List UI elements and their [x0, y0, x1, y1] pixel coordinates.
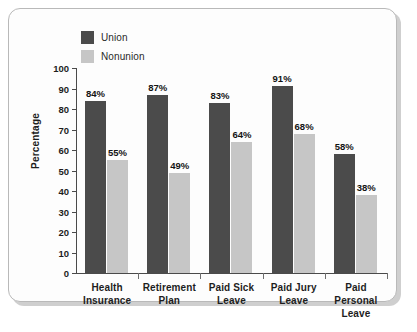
- category-label-line: Paid Jury: [263, 281, 325, 294]
- y-tick-mark: [72, 273, 76, 274]
- y-tick-label: 50: [58, 165, 69, 176]
- bar-nonunion: 49%: [169, 173, 190, 273]
- bar-nonunion: 64%: [231, 142, 252, 273]
- category-label-line: Leave: [325, 307, 387, 320]
- bar-value-label: 87%: [148, 82, 167, 93]
- category-separator: [200, 273, 201, 279]
- bar-value-label: 91%: [273, 73, 292, 84]
- bar-nonunion: 38%: [356, 195, 377, 273]
- category-label: Paid JuryLeave: [263, 281, 325, 307]
- y-tick-label: 20: [58, 227, 69, 238]
- bar-union: 83%: [209, 103, 230, 273]
- bar-value-label: 55%: [108, 147, 127, 158]
- category-label-line: Plan: [138, 294, 200, 307]
- chart-page: UnionNonunion Percentage 100908070605040…: [0, 0, 417, 332]
- category-label-line: Health: [76, 281, 138, 294]
- y-axis-title: Percentage: [30, 113, 41, 169]
- y-tick-label: 70: [58, 124, 69, 135]
- bar-group: 87%49%: [138, 68, 200, 273]
- bar-group: 84%55%: [76, 68, 138, 273]
- legend-swatch-icon: [81, 50, 94, 63]
- y-tick-label: 100: [53, 63, 69, 74]
- category-separator: [263, 273, 264, 279]
- legend-swatch-icon: [81, 31, 94, 44]
- category-label-line: Leave: [263, 294, 325, 307]
- y-tick-label: 80: [58, 104, 69, 115]
- bar-group: 58%38%: [325, 68, 387, 273]
- category-separator: [387, 273, 388, 279]
- category-label-line: Paid Personal: [325, 281, 387, 307]
- category-label-line: Retirement: [138, 281, 200, 294]
- category-label-line: Paid Sick: [200, 281, 262, 294]
- plot-area: 1009080706050403020100 84%55%87%49%83%64…: [76, 68, 387, 274]
- y-tick-label: 90: [58, 83, 69, 94]
- y-tick-label: 40: [58, 186, 69, 197]
- bar-value-label: 84%: [86, 88, 105, 99]
- bar-value-label: 38%: [357, 182, 376, 193]
- chart-legend: UnionNonunion: [81, 29, 145, 67]
- category-label-line: Leave: [200, 294, 262, 307]
- bar-value-label: 64%: [232, 129, 251, 140]
- category-label-line: Insurance: [76, 294, 138, 307]
- y-tick-label: 0: [64, 268, 69, 279]
- bar-union: 84%: [85, 101, 106, 273]
- bar-union: 91%: [272, 86, 293, 273]
- bar-value-label: 58%: [335, 141, 354, 152]
- category-label: HealthInsurance: [76, 281, 138, 307]
- bar-nonunion: 55%: [107, 160, 128, 273]
- bar-value-label: 68%: [295, 121, 314, 132]
- y-tick-label: 10: [58, 247, 69, 258]
- bar-group: 91%68%: [263, 68, 325, 273]
- y-tick-label: 30: [58, 206, 69, 217]
- category-label: Paid SickLeave: [200, 281, 262, 307]
- legend-item-label: Union: [101, 32, 128, 43]
- category-separator: [138, 273, 139, 279]
- bar-union: 58%: [334, 154, 355, 273]
- bar-group: 83%64%: [200, 68, 262, 273]
- category-label: RetirementPlan: [138, 281, 200, 307]
- legend-item-nonunion: Nonunion: [81, 48, 145, 64]
- x-axis-line: [76, 273, 387, 274]
- y-tick-label: 60: [58, 145, 69, 156]
- bar-union: 87%: [147, 95, 168, 273]
- bar-value-label: 83%: [210, 90, 229, 101]
- category-separator: [325, 273, 326, 279]
- bar-value-label: 49%: [170, 160, 189, 171]
- legend-item-label: Nonunion: [101, 51, 145, 62]
- bar-nonunion: 68%: [294, 134, 315, 273]
- legend-item-union: Union: [81, 29, 145, 45]
- chart-card: UnionNonunion Percentage 100908070605040…: [8, 8, 397, 302]
- category-label: Paid PersonalLeave: [325, 281, 387, 320]
